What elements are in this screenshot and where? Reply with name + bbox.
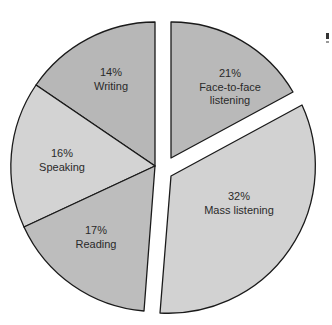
page-edge-mark-small — [326, 41, 329, 43]
label-writing-pct: 14% — [94, 66, 128, 80]
label-face-to-face-pct: 21% — [199, 67, 261, 81]
label-face-to-face-name-1: Face-to-face — [199, 81, 261, 95]
label-mass-listening: 32% Mass listening — [204, 190, 274, 217]
label-reading-pct: 17% — [76, 224, 117, 238]
label-writing: 14% Writing — [94, 66, 128, 93]
label-writing-name: Writing — [94, 80, 128, 94]
label-face-to-face-name-2: listening — [199, 94, 261, 108]
label-speaking-name: Speaking — [39, 161, 85, 175]
label-reading-name: Reading — [76, 238, 117, 252]
label-reading: 17% Reading — [76, 224, 117, 251]
label-face-to-face-listening: 21% Face-to-face listening — [199, 67, 261, 108]
label-speaking-pct: 16% — [39, 147, 85, 161]
page-edge-mark — [326, 33, 329, 39]
label-mass-name: Mass listening — [204, 204, 274, 218]
label-speaking: 16% Speaking — [39, 147, 85, 174]
label-mass-pct: 32% — [204, 190, 274, 204]
